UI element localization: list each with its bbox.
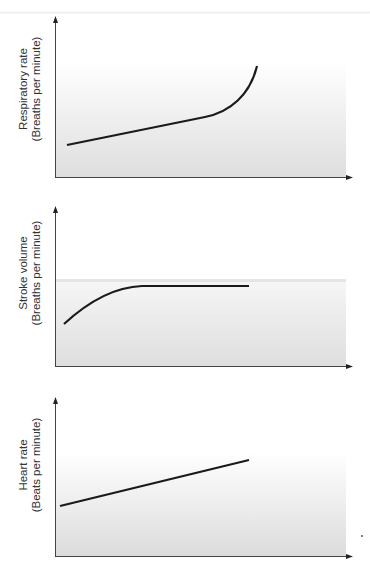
heart-rate-plot	[0, 380, 370, 573]
shade-band	[56, 279, 346, 282]
heart-rate-chart: Heart rate (Beats per minute)	[0, 380, 370, 573]
shaded-area	[56, 452, 346, 556]
x-axis-arrow-icon	[346, 175, 353, 180]
stray-dot	[361, 535, 363, 537]
shaded-area	[56, 280, 346, 366]
y-axis-label: Respiratory rate (Breaths per minute)	[17, 9, 43, 169]
stroke-volume-plot	[0, 190, 370, 380]
y-axis-arrow-icon	[53, 206, 58, 213]
y-axis-arrow-icon	[53, 397, 58, 404]
shaded-area	[56, 62, 346, 177]
y-axis-label: Heart rate (Beats per minute)	[17, 385, 43, 545]
respiratory-rate-chart: Respiratory rate (Breaths per minute)	[0, 0, 370, 190]
stroke-volume-chart: Stroke volume (Breaths per minute)	[0, 190, 370, 380]
y-axis-arrow-icon	[53, 16, 58, 23]
x-axis-arrow-icon	[346, 364, 353, 369]
y-axis-label: Stroke volume (Breaths per minute)	[17, 193, 43, 353]
x-axis-arrow-icon	[346, 554, 353, 559]
respiratory-rate-plot	[0, 0, 370, 190]
